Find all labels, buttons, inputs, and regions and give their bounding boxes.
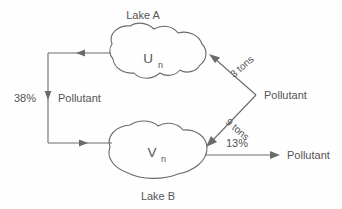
diagram-canvas: Lake A U n Lake B V n 38% Pollutant 3 to… bbox=[0, 0, 342, 209]
label-external-source: Pollutant bbox=[264, 89, 307, 101]
label-a-to-b-substance: Pollutant bbox=[58, 92, 101, 104]
arrow-head-down-middle bbox=[45, 91, 52, 100]
arrow-head-b-outflow bbox=[270, 151, 280, 159]
arrow-head-left-top bbox=[76, 50, 85, 57]
arrow-head-right-bottom bbox=[79, 140, 88, 147]
lake-a-variable-subscript: n bbox=[158, 60, 163, 70]
label-a-to-b-rate: 38% bbox=[14, 92, 36, 104]
lake-b-title: Lake B bbox=[141, 190, 175, 202]
pollutant-flow-diagram: Lake A U n Lake B V n 38% Pollutant 3 to… bbox=[0, 0, 342, 209]
lake-b-shape bbox=[109, 121, 207, 178]
lake-b-variable: V bbox=[147, 145, 156, 160]
lake-a-variable: U bbox=[143, 51, 153, 66]
lake-b-variable-subscript: n bbox=[161, 154, 166, 164]
label-b-out-substance: Pollutant bbox=[287, 149, 330, 161]
lake-a-title: Lake A bbox=[126, 9, 160, 21]
label-into-a-amount: 3 tons bbox=[228, 53, 256, 79]
label-b-out-rate: 13% bbox=[226, 137, 248, 149]
